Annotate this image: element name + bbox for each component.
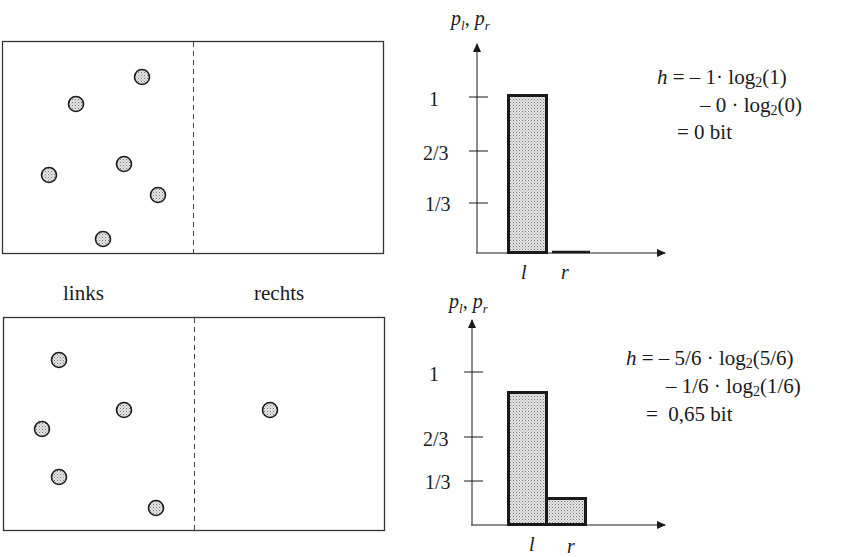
top-container — [3, 42, 384, 254]
particle — [117, 157, 132, 172]
top-particles — [42, 70, 166, 247]
bottom-chart-ylabel: pl, pr — [449, 291, 488, 315]
formula-text: – 1/6 · log — [666, 374, 753, 398]
formula-text: (1/6) — [760, 374, 801, 398]
top-tick-label-1-3: 1/3 — [425, 194, 451, 214]
top-x-label-l: l — [521, 262, 527, 282]
bottom-formula-line2: – 1/6 · log2(1/6) — [666, 373, 801, 399]
label-rechts: rechts — [254, 283, 304, 304]
particle — [35, 422, 50, 437]
bottom-tick-label-1-3: 1/3 — [425, 472, 451, 492]
particle — [42, 168, 57, 183]
bottom-tick-label-2-3: 2/3 — [423, 429, 449, 449]
particle-right — [263, 403, 278, 418]
top-tick-label-1: 1 — [429, 89, 439, 109]
top-entropy-formula: h = – 1· log2(1) – 0 · log2(0) = 0 bit — [657, 64, 668, 169]
ylabel-sub-r: r — [483, 301, 488, 316]
ylabel-p: p — [475, 7, 485, 29]
particle — [96, 232, 111, 247]
formula-text: – 0 · log — [700, 93, 771, 117]
particle — [151, 188, 166, 203]
formula-text: (1) — [762, 65, 787, 89]
formula-text: (0) — [778, 93, 803, 117]
ylabel-p: p — [449, 290, 459, 312]
formula-sub: 2 — [753, 384, 760, 399]
formula-sub: 2 — [746, 356, 753, 371]
formula-text: = – 1· log — [668, 64, 756, 90]
ylabel-sub-r: r — [485, 18, 490, 33]
top-formula-line2: – 0 · log2(0) — [700, 92, 802, 118]
bottom-bar-r — [547, 499, 586, 525]
top-tick-label-2-3: 2/3 — [423, 143, 449, 163]
particle — [52, 470, 67, 485]
ylabel-p: p — [473, 290, 483, 312]
particle — [52, 353, 67, 368]
bottom-formula-line3: = 0,65 bit — [646, 401, 733, 427]
ylabel-p: p — [451, 7, 461, 29]
top-chart — [469, 44, 665, 253]
bottom-particles — [35, 353, 278, 516]
bottom-tick-label-1: 1 — [429, 364, 439, 384]
formula-text: = – 5/6 · log — [637, 346, 746, 370]
particle — [149, 501, 164, 516]
label-links: links — [63, 283, 104, 304]
bottom-bar-l — [509, 393, 547, 525]
top-bar-l — [509, 96, 547, 253]
bottom-formula-line1: h = – 5/6 · log2(5/6) — [626, 345, 794, 371]
particle — [135, 70, 150, 85]
formula-text: (5/6) — [753, 346, 794, 370]
particle — [117, 403, 132, 418]
bottom-entropy-formula: h = – 5/6 · log2(5/6) – 1/6 · log2(1/6) … — [626, 345, 637, 450]
top-x-label-r: r — [561, 262, 569, 282]
bottom-x-label-r: r — [567, 536, 575, 556]
top-formula-line1: h = – 1· log2(1) — [657, 64, 787, 90]
bottom-x-label-l: l — [529, 534, 535, 554]
formula-sub: 2 — [771, 103, 778, 118]
top-chart-ylabel: pl, pr — [451, 8, 490, 32]
particle — [69, 97, 84, 112]
top-formula-line3: = 0 bit — [677, 119, 732, 145]
bottom-container — [4, 318, 385, 531]
